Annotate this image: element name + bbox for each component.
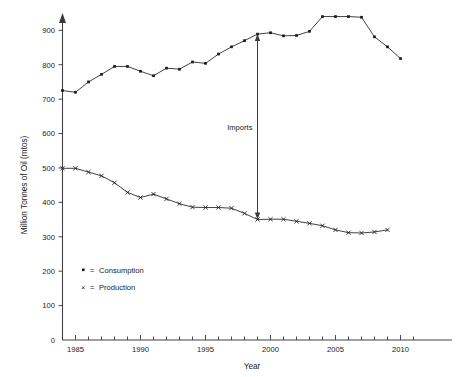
y-axis [59, 13, 66, 340]
data-point-marker [282, 34, 285, 37]
data-point-marker [204, 62, 207, 65]
data-point-marker [113, 65, 116, 68]
data-point-marker [191, 61, 194, 64]
data-point-marker [165, 67, 168, 70]
imports-annotation: Imports [227, 34, 260, 219]
data-point-marker [386, 45, 389, 48]
x-tick-label-1990: 1990 [132, 345, 149, 354]
data-point-marker [269, 31, 272, 34]
data-point-marker [178, 68, 181, 71]
legend-production-label: Production [99, 283, 135, 292]
x-tick-label-2010: 2010 [392, 345, 409, 354]
series-line-consumption [63, 17, 401, 93]
chart-container: 0100200300400500600700800900 19851990199… [0, 0, 463, 377]
legend-consumption-marker-icon [82, 269, 85, 272]
data-point-marker [295, 34, 298, 37]
data-point-marker [308, 30, 311, 33]
data-point-marker [61, 89, 64, 92]
y-axis-title: Million Tonnes of Oil (mtos) [20, 135, 29, 234]
y-tick-label-700: 700 [42, 95, 55, 104]
y-tick-label-600: 600 [42, 129, 55, 138]
legend-consumption-separator: = [90, 266, 95, 275]
x-tick-label-1985: 1985 [67, 345, 84, 354]
data-point-marker [243, 39, 246, 42]
series-line-production [63, 168, 388, 233]
legend-production-separator: = [90, 283, 95, 292]
data-point-marker [360, 16, 363, 19]
data-point-marker [347, 15, 350, 18]
legend: = Consumption × = Production [81, 266, 144, 292]
y-tick-label-900: 900 [42, 26, 55, 35]
y-tick-label-100: 100 [42, 301, 55, 310]
line-chart-svg: 0100200300400500600700800900 19851990199… [0, 0, 463, 377]
legend-production-marker-icon: × [81, 283, 85, 292]
x-tick-label-2005: 2005 [327, 345, 344, 354]
y-tick-label-500: 500 [42, 164, 55, 173]
x-axis-title: Year [244, 362, 261, 371]
data-point-marker [334, 15, 337, 18]
y-tick-label-0: 0 [51, 336, 55, 345]
data-point-marker [230, 45, 233, 48]
y-tick-label-800: 800 [42, 61, 55, 70]
imports-annotation-label: Imports [227, 123, 253, 132]
data-point-marker [152, 74, 155, 77]
y-axis-ticks: 0100200300400500600700800900 [42, 26, 62, 345]
data-point-marker [217, 53, 220, 56]
data-point-marker [74, 91, 77, 94]
data-point-marker [139, 70, 142, 73]
legend-consumption-label: Consumption [99, 266, 144, 275]
data-point-marker [399, 57, 402, 60]
data-point-marker [242, 211, 246, 215]
y-tick-label-300: 300 [42, 233, 55, 242]
y-tick-label-200: 200 [42, 267, 55, 276]
data-point-marker [321, 15, 324, 18]
data-point-marker [164, 197, 168, 201]
data-point-marker [87, 81, 90, 84]
y-axis-arrowhead [59, 13, 66, 23]
x-tick-label-2000: 2000 [262, 345, 279, 354]
data-point-marker [112, 181, 116, 185]
x-axis-tick-labels: 198519901995200020052010 [67, 345, 409, 354]
data-point-marker [125, 190, 129, 194]
x-tick-label-1995: 1995 [197, 345, 214, 354]
data-point-marker [373, 36, 376, 39]
data-point-marker [100, 73, 103, 76]
y-tick-label-400: 400 [42, 198, 55, 207]
data-point-marker [126, 65, 129, 68]
x-axis-ticks [63, 335, 414, 340]
